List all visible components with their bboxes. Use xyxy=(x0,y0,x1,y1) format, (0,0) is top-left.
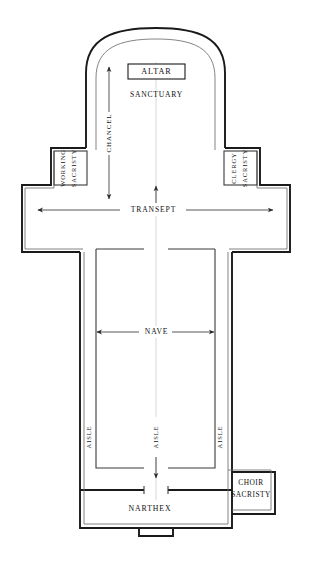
nave-label: NAVE xyxy=(145,327,168,336)
church-floor-plan-drawing: ALTAR SANCTUARY CHANCEL WORKING SACRISTY… xyxy=(0,0,311,564)
choir-sacristy-label-line1: CHOIR xyxy=(238,478,264,487)
working-sacristy-label-line2: SACRISTY xyxy=(70,149,77,188)
aisle-center-label: AISLE xyxy=(152,426,159,449)
aisle-left-label: AISLE xyxy=(85,426,92,449)
floor-plan-container: ALTAR SANCTUARY CHANCEL WORKING SACRISTY… xyxy=(0,0,311,564)
chancel-label: CHANCEL xyxy=(105,114,112,153)
choir-sacristy-label-line2: SACRISTY xyxy=(231,490,271,499)
narthex-label: NARTHEX xyxy=(128,504,171,513)
working-sacristy-label-line1: WORKING xyxy=(59,149,66,187)
sanctuary-label: SANCTUARY xyxy=(130,90,183,99)
altar-label: ALTAR xyxy=(141,67,171,76)
clergy-sacristy-label-line2: SACRISTY xyxy=(241,149,248,188)
clergy-sacristy-label-line1: CLERGY xyxy=(230,152,237,183)
aisle-right-label: AISLE xyxy=(216,426,223,449)
transept-label: TRANSEPT xyxy=(131,205,177,214)
